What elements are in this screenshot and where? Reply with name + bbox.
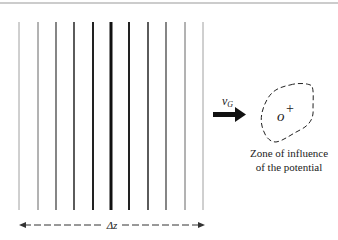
zone-caption-line2: of the potential <box>256 161 323 173</box>
velocity-label: vG <box>222 94 233 109</box>
span-label: Δz <box>106 219 118 231</box>
arrow-left-icon <box>19 222 26 228</box>
origin-plus-icon: + <box>286 101 294 116</box>
origin-label: o <box>277 108 285 124</box>
arrow-right-icon <box>198 222 205 228</box>
velocity-arrow <box>213 107 246 122</box>
vertical-lines <box>19 22 203 210</box>
zone-caption-line1: Zone of influence <box>250 147 328 159</box>
diagram-canvas: vG o + Zone of influence of the potentia… <box>0 0 338 240</box>
